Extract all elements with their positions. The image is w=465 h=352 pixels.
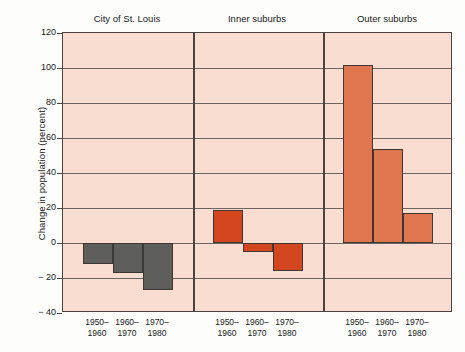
bar-inner-suburbs-1950–1960: [213, 210, 243, 243]
plot-area: [62, 32, 452, 312]
y-axis-tick-mark: [57, 138, 62, 139]
y-axis-tick-label: 40: [24, 167, 56, 177]
bar-inner-suburbs-1970–1980: [273, 243, 303, 271]
x-axis-tick-label: 1950–1960: [345, 317, 369, 338]
y-axis-tick-label: 80: [24, 97, 56, 107]
x-axis-tick-label-line: 1950–: [345, 317, 369, 328]
y-axis-tick-label: 0: [24, 237, 56, 247]
x-axis-tick-label-line: 1970–: [145, 317, 169, 328]
panel-title-outer-suburbs: Outer suburbs: [357, 13, 417, 24]
x-axis-tick-label-line: 1960–: [375, 317, 399, 328]
y-axis-tick-label: 100: [24, 62, 56, 72]
x-axis-tick-label: 1970–1980: [405, 317, 429, 338]
x-axis-tick-label: 1970–1980: [275, 317, 299, 338]
x-axis-tick-label-line: 1960: [345, 328, 369, 339]
y-axis-tick-mark: [57, 278, 62, 279]
population-change-bar-chart: Change in population (percent) 120100806…: [0, 0, 465, 352]
panel-title-inner-suburbs: Inner suburbs: [228, 13, 286, 24]
y-axis-tick-mark: [57, 243, 62, 244]
x-axis-tick-label: 1950–1960: [215, 317, 239, 338]
x-axis-tick-label: 1960–1970: [115, 317, 139, 338]
y-axis-tick-mark: [57, 33, 62, 34]
bar-outer-suburbs-1960–1970: [373, 149, 403, 244]
gridline: [63, 278, 451, 279]
bar-city-of-st-louis-1960–1970: [113, 243, 143, 273]
y-axis-tick-label: − 40: [24, 307, 56, 317]
x-axis-tick-label-line: 1950–: [215, 317, 239, 328]
bar-city-of-st-louis-1950–1960: [83, 243, 113, 264]
x-axis-tick-label-line: 1970: [375, 328, 399, 339]
gridline: [63, 138, 451, 139]
x-axis-tick-label-line: 1970–: [275, 317, 299, 328]
x-axis-tick-label: 1970–1980: [145, 317, 169, 338]
x-axis-tick-label-line: 1970–: [405, 317, 429, 328]
x-axis-tick-label-line: 1960–: [245, 317, 269, 328]
y-axis-tick-label: − 20: [24, 272, 56, 282]
x-axis-tick-label-line: 1980: [145, 328, 169, 339]
y-axis-tick-label: 60: [24, 132, 56, 142]
bar-city-of-st-louis-1970–1980: [143, 243, 173, 290]
gridline: [63, 103, 451, 104]
y-axis-tick-label: 20: [24, 202, 56, 212]
x-axis-tick-label-line: 1960–: [115, 317, 139, 328]
y-axis-tick-mark: [57, 103, 62, 104]
x-axis-tick-label-line: 1970: [245, 328, 269, 339]
bar-outer-suburbs-1950–1960: [343, 65, 373, 244]
y-axis-tick-mark: [57, 208, 62, 209]
y-axis-tick-labels: 120100806040200− 20− 40: [24, 0, 56, 352]
x-axis-tick-label-line: 1980: [405, 328, 429, 339]
x-axis-tick-label-line: 1980: [275, 328, 299, 339]
x-axis-tick-label-line: 1960: [215, 328, 239, 339]
x-axis-tick-label-line: 1960: [85, 328, 109, 339]
y-axis-tick-mark: [57, 68, 62, 69]
y-axis-tick-mark: [57, 173, 62, 174]
y-axis-tick-label: 120: [24, 27, 56, 37]
panel-title-city-of-st-louis: City of St. Louis: [94, 13, 161, 24]
x-axis-tick-label-line: 1970: [115, 328, 139, 339]
x-axis-tick-label: 1960–1970: [375, 317, 399, 338]
panel-divider: [323, 33, 325, 311]
bar-inner-suburbs-1960–1970: [243, 243, 273, 252]
gridline: [63, 68, 451, 69]
x-axis-tick-label: 1960–1970: [245, 317, 269, 338]
y-axis-tick-mark: [57, 313, 62, 314]
x-axis-tick-label: 1950–1960: [85, 317, 109, 338]
bar-outer-suburbs-1970–1980: [403, 213, 433, 243]
panel-divider: [193, 33, 195, 311]
x-axis-tick-label-line: 1950–: [85, 317, 109, 328]
